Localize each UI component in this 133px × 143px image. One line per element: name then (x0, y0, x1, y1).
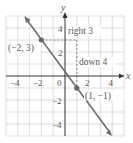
y-tick-label: −2 (52, 96, 62, 106)
right-3-label: right 3 (68, 26, 93, 36)
x-tick-label: 2 (85, 78, 90, 88)
y-tick-label: 4 (58, 24, 63, 34)
y-tick-label: −4 (52, 120, 62, 130)
y-axis-label: y (60, 2, 66, 13)
point-1-neg1 (74, 85, 79, 90)
x-tick-label: −2 (33, 78, 43, 88)
y-tick-label: 2 (58, 48, 63, 58)
x-axis-label: x (125, 70, 131, 81)
x-tick-label: −4 (10, 78, 20, 88)
point-label-1-neg1: (1, −1) (85, 91, 111, 102)
x-tick-label: 0 (57, 78, 62, 88)
coordinate-plane: x y −4 −2 0 2 4 4 2 −2 −4 right 3 down 4… (0, 0, 133, 143)
point-label-neg2-3: (−2, 3) (8, 43, 34, 54)
point-neg2-3 (39, 37, 44, 42)
axes (6, 14, 124, 136)
x-axis-arrow-icon (119, 74, 124, 79)
line-arrow-bottom-icon (106, 130, 112, 137)
x-tick-label: 4 (109, 78, 114, 88)
down-4-label: down 4 (79, 57, 107, 67)
